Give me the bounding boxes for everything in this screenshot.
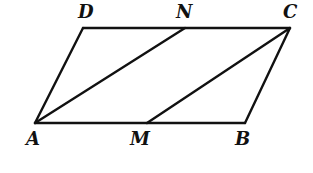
label-a: A (26, 130, 40, 148)
label-d: D (78, 3, 94, 21)
label-b: B (235, 130, 250, 148)
label-m: M (130, 130, 150, 148)
label-c: C (283, 3, 297, 21)
geometry-figure: D N C A M B (0, 0, 313, 173)
segment-an (35, 28, 185, 123)
parallelogram-svg (0, 0, 313, 173)
label-n: N (176, 3, 192, 21)
